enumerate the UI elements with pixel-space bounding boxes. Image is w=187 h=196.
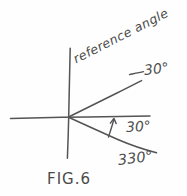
figure-caption: FIG.6 — [47, 170, 91, 188]
interior-angle-label: 30° — [126, 118, 152, 135]
reference-angle-ray — [69, 81, 142, 117]
upper-label-leader — [130, 72, 144, 75]
figure-container: reference angle 30° 30° 330° FIG.6 — [0, 0, 187, 196]
sketch-canvas — [0, 0, 187, 196]
y-axis-line — [67, 48, 70, 158]
upper-ray-angle-label: 30° — [143, 59, 169, 78]
